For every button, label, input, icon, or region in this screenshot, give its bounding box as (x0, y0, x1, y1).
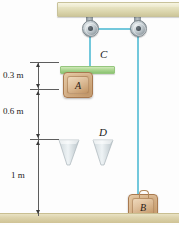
dimension-tick-0-9 (30, 139, 59, 140)
dimension-arrow-0-3-bottom (36, 84, 40, 88)
dimension-tick-0-3 (30, 89, 59, 90)
block-b-hook (139, 190, 149, 198)
dimension-label-0-3: 0.3 m (3, 70, 24, 80)
label-cone-d: D (99, 126, 107, 138)
pulley-left-rim (85, 23, 98, 36)
block-a: A (63, 72, 93, 98)
ground-surface (0, 213, 179, 223)
dimension-arrow-0-6-bottom (36, 134, 40, 138)
block-a-label: A (75, 80, 81, 91)
rope-segment-right-to-block-b (137, 28, 139, 196)
block-b-label: B (140, 202, 146, 213)
pulley-left (82, 20, 99, 37)
dimension-arrow-1m-bottom (36, 210, 40, 214)
dimension-arrow-1m-top (36, 141, 40, 145)
dimension-label-0-6: 0.6 m (3, 106, 24, 116)
dimension-arrow-0-3-top (36, 63, 40, 67)
label-platform-c: C (100, 48, 107, 60)
dimension-label-1m: 1 m (11, 170, 25, 180)
dimension-tick-top (30, 62, 59, 63)
pulley-right (130, 20, 147, 37)
dimension-arrow-0-6-top (36, 91, 40, 95)
pulley-diagram: C A (0, 0, 179, 225)
pulley-right-rim (133, 23, 146, 36)
ceiling-beam (57, 2, 179, 17)
ceiling-beam-highlight (58, 3, 179, 7)
